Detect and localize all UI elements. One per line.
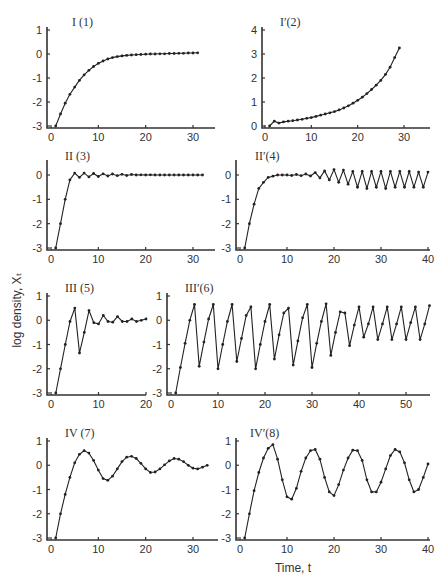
data-point [78,352,81,355]
data-point [173,52,176,55]
data-point [92,172,95,175]
data-point [198,365,201,368]
y-tick-label: -1 [32,339,42,351]
data-point [83,172,86,175]
x-tick-label: 30 [187,543,199,555]
data-point [125,54,128,57]
data-point [135,174,138,177]
data-point [329,354,332,357]
data-point [168,460,171,463]
data-point [352,102,355,105]
data-point [264,320,267,323]
data-point [300,470,303,473]
data-point [121,173,124,176]
y-tick-label: 0 [36,459,42,471]
data-point [248,512,251,515]
y-tick-label: -2 [221,508,231,520]
data-point [144,468,147,471]
data-point [422,476,425,479]
x-tick-label: 20 [140,543,152,555]
data-point [417,488,420,491]
data-point [154,53,157,56]
data-point [311,366,314,369]
data-point [217,367,220,370]
data-point [319,114,322,117]
data-point [111,173,114,176]
data-point [395,323,398,326]
data-point [278,122,281,125]
data-point [177,458,180,461]
data-point [380,481,383,484]
series-line [56,53,198,126]
x-tick-label: 0 [168,398,174,410]
data-point [398,451,401,454]
data-point [347,104,350,107]
y-tick-label: 0 [156,314,162,326]
data-point [92,321,95,324]
x-tick-label: 10 [281,543,293,555]
data-point [278,333,281,336]
data-point [130,54,133,57]
data-point [276,458,279,461]
y-tick-label: -1 [32,72,42,84]
data-point [304,457,307,460]
data-point [243,537,246,540]
data-point [272,175,275,178]
x-tick-label: 20 [328,253,340,265]
data-point [97,62,100,65]
panel-title: IV (7) [65,426,94,440]
data-point [173,174,176,177]
data-point [361,459,364,462]
data-point [64,493,67,496]
data-point [221,343,224,346]
x-tick-label: 20 [140,131,152,143]
data-point [386,306,389,309]
data-point [405,338,408,341]
data-point [144,174,147,177]
y-tick-label: 1 [36,290,42,302]
y-tick-label: 0 [36,48,42,60]
data-point [391,338,394,341]
data-point [342,469,345,472]
x-tick-label: 0 [48,398,54,410]
data-point [107,320,110,323]
data-point [400,306,403,309]
data-point [154,471,157,474]
x-tick-label: 0 [262,131,268,143]
data-point [78,453,81,456]
data-point [272,443,275,446]
data-point [282,121,285,124]
data-point [428,304,431,307]
y-tick-label: -2 [32,96,42,108]
data-point [97,323,100,326]
y-tick-label: 3 [251,48,257,60]
chart-panel-4: 0-1-2-3010203040II′(4) [221,149,434,265]
data-point [88,452,91,455]
data-point [111,56,114,59]
data-point [177,174,180,177]
data-point [262,457,265,460]
data-point [356,186,359,189]
data-point [201,174,204,177]
data-point [159,468,162,471]
x-tick-label: 20 [259,398,271,410]
data-point [196,468,199,471]
x-tick-label: 0 [237,253,243,265]
data-point [121,320,124,323]
x-tick-label: 40 [422,543,434,555]
panel-title: I (1) [72,15,93,29]
data-point [159,174,162,177]
data-point [187,174,190,177]
data-point [149,53,152,56]
data-point [144,53,147,56]
data-point [59,367,62,370]
data-point [111,321,114,324]
data-point [297,340,300,343]
data-point [315,115,318,118]
data-point [389,454,392,457]
panel-title: II (3) [65,149,90,163]
data-point [125,174,128,177]
y-tick-label: 1 [156,290,162,302]
chart-panel-8: 10-1-2-3010203040IV′(8) [221,426,434,555]
data-point [306,303,309,306]
